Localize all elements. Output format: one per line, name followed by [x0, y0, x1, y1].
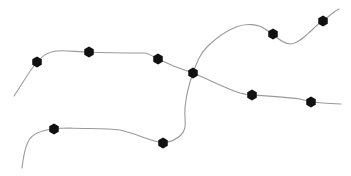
node-h-hexagon-icon [49, 124, 59, 135]
node-d-hexagon-icon [268, 29, 278, 40]
node-g-hexagon-icon [306, 97, 316, 108]
node-i-hexagon-icon [158, 138, 168, 149]
node-f-hexagon-icon [247, 90, 257, 101]
edge-south [22, 73, 193, 168]
edge-east [193, 73, 341, 104]
node-hub-hexagon-icon [188, 68, 198, 79]
edge-layer [14, 9, 341, 168]
node-b-hexagon-icon [84, 47, 94, 58]
node-c-hexagon-icon [153, 54, 163, 65]
node-e-hexagon-icon [318, 16, 328, 27]
edge-northeast [193, 9, 339, 73]
edge-west [14, 51, 193, 96]
network-diagram [0, 0, 351, 176]
